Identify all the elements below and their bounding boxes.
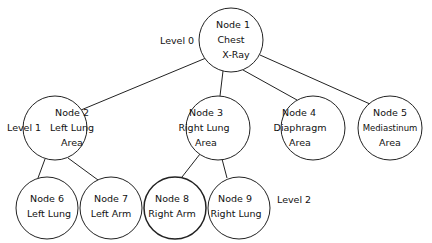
- node-4-line-3: Area: [289, 137, 311, 148]
- node-4-line-2: Diaphragm: [274, 122, 327, 133]
- node-8-line-1: Node 8: [155, 193, 189, 204]
- node-9-line-1: Node 9: [218, 193, 252, 204]
- node-8-line-2: Right Arm: [148, 208, 196, 219]
- edge-1-3: [220, 71, 223, 96]
- node-1-line-1: Node 1: [216, 19, 250, 30]
- edge-3-9: [222, 159, 227, 178]
- edge-2-7: [68, 158, 98, 180]
- node-5-line-3: Area: [379, 137, 401, 148]
- edge-3-8: [182, 154, 200, 177]
- node-3-line-2: Right Lung: [178, 122, 229, 133]
- node-1-line-2: Chest: [217, 34, 244, 45]
- node-5-line-1: Node 5: [373, 107, 407, 118]
- level-0-label: Level 0: [160, 35, 194, 46]
- edge-1-2: [81, 58, 206, 110]
- edge-2-6: [38, 159, 45, 178]
- node-4-line-1: Node 4: [282, 107, 316, 118]
- level-1-label: Level 1: [7, 122, 41, 133]
- node-2-line-1: Node 2: [55, 107, 89, 118]
- node-7-line-1: Node 7: [94, 193, 128, 204]
- node-6-line-1: Node 6: [30, 193, 64, 204]
- node-7-line-2: Left Arm: [91, 208, 131, 219]
- node-5-line-2: Mediastinum: [363, 123, 418, 133]
- level-2-label: Level 2: [277, 194, 311, 205]
- node-2-line-2: Left Lung: [50, 122, 94, 133]
- node-2-line-3: Area: [61, 137, 83, 148]
- edge-1-4: [243, 70, 297, 100]
- node-3-line-1: Node 3: [189, 107, 223, 118]
- node-3-line-3: Area: [195, 137, 217, 148]
- node-9-line-2: Right Lung: [210, 208, 261, 219]
- node-6-line-2: Left Lung: [27, 208, 71, 219]
- tree-diagram: Node 1 Chest X-Ray Node 2 Left Lung Area…: [0, 0, 432, 243]
- node-1-line-3: X-Ray: [222, 49, 250, 60]
